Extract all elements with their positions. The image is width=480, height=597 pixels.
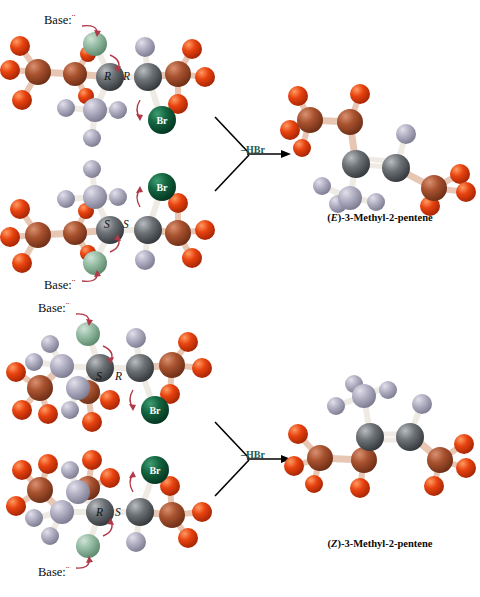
stereo-label-RR-right: R <box>123 70 130 82</box>
base-label-SR: Base:¨ <box>38 300 70 316</box>
reaction-arrow-bottom <box>213 420 293 500</box>
hbr-label-bottom: –HBr <box>241 449 265 460</box>
stereo-label-RS-left: R <box>96 506 103 518</box>
molecule-reactant-RR: Br <box>0 22 215 147</box>
stereo-label-SS-left: S <box>104 218 110 230</box>
lone-pair-icon: ¨ <box>66 564 70 576</box>
stereo-label-SS-right: S <box>123 218 129 230</box>
molecule-reactant-RS: Br <box>0 450 215 575</box>
figure-title-cropped <box>60 0 430 3</box>
figure-canvas: Br Base:¨ R R <box>0 0 480 597</box>
molecule-product-Z <box>288 388 478 513</box>
base-label-SS: Base:¨ <box>44 277 76 293</box>
lone-pair-icon: ¨ <box>72 12 76 24</box>
stereo-label-SR-right: R <box>115 370 122 382</box>
product-label-Z: (Z)-3-Methyl-2-pentene <box>300 538 460 549</box>
svg-text:Br: Br <box>149 405 161 416</box>
lone-pair-icon: ¨ <box>72 277 76 289</box>
svg-text:Br: Br <box>156 182 168 193</box>
stereo-label-RR-left: R <box>104 70 111 82</box>
molecule-reactant-SR: Br <box>0 310 215 435</box>
svg-text:Br: Br <box>149 465 161 476</box>
lone-pair-icon: ¨ <box>66 300 70 312</box>
base-label-RR: Base:¨ <box>44 12 76 28</box>
stereo-label-RS-right: S <box>115 506 121 518</box>
stereo-label-SR-left: S <box>96 370 102 382</box>
molecule-product-E <box>288 82 478 207</box>
base-label-RS: Base:¨ <box>38 564 70 580</box>
hbr-label-top: –HBr <box>241 144 265 155</box>
svg-text:Br: Br <box>156 115 168 126</box>
product-label-E: (E)-3-Methyl-2-pentene <box>300 212 460 223</box>
